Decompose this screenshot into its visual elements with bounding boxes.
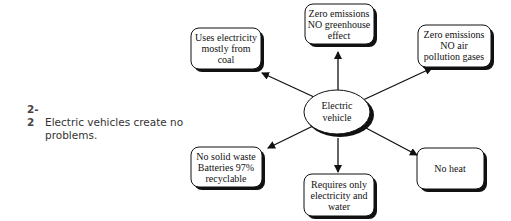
arrow-to-waste [268,125,315,148]
node-greenhouse: Zero emissions NO greenhouse effect [305,4,377,47]
node-waste: No solid waste Batteries 97% recyclable [191,147,265,190]
node-heat: No heat [417,148,487,192]
svg-text:Zero emissions: Zero emissions [309,8,370,19]
svg-text:effect: effect [328,30,351,41]
svg-text:water: water [328,201,351,212]
center-label-2: vehicle [323,112,352,123]
svg-text:electricity and: electricity and [311,190,368,201]
arrow-to-air [363,68,432,100]
svg-text:pollution gases: pollution gases [424,51,484,62]
svg-text:Zero emissions: Zero emissions [424,29,485,40]
svg-text:NO greenhouse: NO greenhouse [308,19,371,30]
svg-text:No heat: No heat [434,163,466,174]
svg-text:Batteries 97%: Batteries 97% [198,162,254,173]
svg-text:Requires only: Requires only [311,179,367,190]
center-node: Electric vehicle [304,90,374,137]
svg-text:Uses electricity: Uses electricity [195,32,257,43]
svg-text:recyclable: recyclable [205,173,247,184]
node-water: Requires only electricity and water [304,174,377,219]
node-coal: Uses electricity mostly from coal [191,28,264,72]
center-label-1: Electric [321,100,353,111]
concept-diagram: Electric vehicle Uses electricity mostly… [0,0,511,221]
svg-text:No solid waste: No solid waste [196,151,256,162]
svg-text:NO air: NO air [440,40,468,51]
arrow-to-heat [366,128,417,155]
node-air: Zero emissions NO air pollution gases [418,25,494,70]
svg-text:coal: coal [218,54,235,65]
svg-text:mostly from: mostly from [201,43,250,54]
